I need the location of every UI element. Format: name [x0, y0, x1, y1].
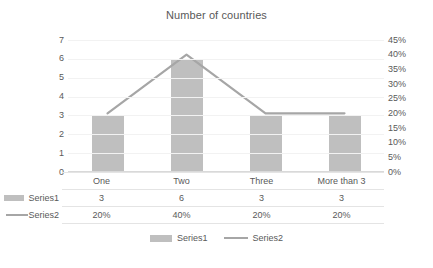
table-cell: 20%: [302, 206, 381, 223]
gridline: [68, 134, 384, 135]
table-cell: 20%: [62, 206, 141, 223]
legend-item-series2[interactable]: Series2: [224, 233, 284, 243]
table-separator: [62, 223, 384, 224]
left-axis-tick: 6: [59, 54, 64, 63]
legend-line-icon: [224, 237, 248, 239]
gridline: [68, 153, 384, 154]
right-axis-tick: 45%: [388, 36, 406, 45]
gridline: [68, 78, 384, 79]
table-cell: 3: [62, 189, 141, 206]
legend-swatch-icon: [150, 235, 172, 242]
chart-container: Number of countries 01234567 0%5%10%15%2…: [0, 0, 433, 268]
left-axis-tick: 1: [59, 149, 64, 158]
right-axis-tick: 30%: [388, 80, 406, 89]
gridline: [68, 115, 384, 116]
left-axis-tick: 4: [59, 92, 64, 101]
right-axis-tick: 25%: [388, 94, 406, 103]
legend-label: Series1: [177, 233, 208, 243]
gridline: [68, 59, 384, 60]
right-percentage-axis: 0%5%10%15%20%25%30%35%40%45%: [388, 40, 428, 172]
legend-label: Series2: [253, 233, 284, 243]
left-axis-tick: 7: [59, 36, 64, 45]
table-row-label: Series1: [28, 193, 59, 203]
table-cell: 20%: [222, 206, 301, 223]
table-header-cell: Three: [222, 172, 301, 189]
data-table: One Two Three More than 3 Series1 3 6 3 …: [0, 172, 433, 224]
left-axis-tick: 2: [59, 130, 64, 139]
chart-legend: Series1 Series2: [0, 231, 433, 245]
plot-area: [68, 40, 384, 172]
table-row-key-empty: [0, 172, 60, 189]
table-cell: 3: [302, 189, 381, 206]
legend-line-icon: [6, 214, 28, 216]
legend-item-series1[interactable]: Series1: [150, 233, 208, 243]
right-axis-tick: 5%: [388, 153, 401, 162]
left-value-axis: 01234567: [44, 40, 64, 172]
table-header-cell: Two: [142, 172, 221, 189]
right-axis-tick: 20%: [388, 109, 406, 118]
right-axis-tick: 10%: [388, 138, 406, 147]
line-path[interactable]: [108, 55, 345, 114]
table-row-key-series1: Series1: [0, 189, 60, 206]
right-axis-tick: 15%: [388, 124, 406, 133]
gridline: [68, 97, 384, 98]
table-cell: 3: [222, 189, 301, 206]
table-cell: 40%: [142, 206, 221, 223]
legend-swatch-icon: [4, 195, 24, 201]
left-axis-tick: 3: [59, 111, 64, 120]
table-row: Series1 3 6 3 3: [0, 189, 433, 206]
right-axis-tick: 40%: [388, 50, 406, 59]
chart-title: Number of countries: [0, 9, 433, 21]
table-cell: 6: [142, 189, 221, 206]
table-row-header: One Two Three More than 3: [0, 172, 433, 189]
table-row: Series2 20% 40% 20% 20%: [0, 206, 433, 223]
table-row-key-series2: Series2: [0, 206, 60, 223]
right-axis-tick: 35%: [388, 65, 406, 74]
gridline: [68, 40, 384, 41]
table-bottom-edge: [0, 223, 433, 224]
table-header-cell: More than 3: [302, 172, 381, 189]
left-axis-tick: 5: [59, 73, 64, 82]
table-row-label: Series2: [28, 210, 59, 220]
table-header-cell: One: [62, 172, 141, 189]
